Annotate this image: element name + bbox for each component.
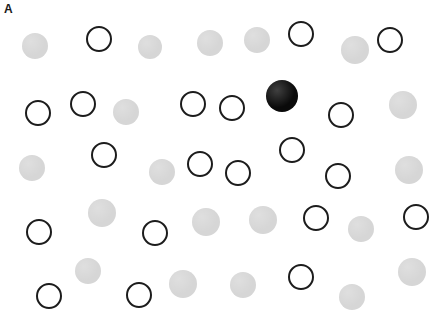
distractor-filled-6[interactable]: [113, 99, 139, 125]
distractor-filled-12[interactable]: [192, 208, 220, 236]
distractor-open-10[interactable]: [187, 151, 213, 177]
distractor-open-15[interactable]: [142, 220, 168, 246]
distractor-filled-16[interactable]: [169, 270, 197, 298]
stimulus-panel: A: [0, 0, 442, 317]
distractor-filled-13[interactable]: [249, 206, 277, 234]
distractor-open-16[interactable]: [303, 205, 329, 231]
distractor-open-7[interactable]: [219, 95, 245, 121]
distractor-open-14[interactable]: [26, 219, 52, 245]
distractor-open-11[interactable]: [225, 160, 251, 186]
distractor-open-13[interactable]: [325, 163, 351, 189]
target-black[interactable]: [266, 80, 298, 112]
distractor-filled-5[interactable]: [341, 36, 369, 64]
distractor-open-12[interactable]: [279, 137, 305, 163]
distractor-open-8[interactable]: [328, 102, 354, 128]
distractor-open-5[interactable]: [70, 91, 96, 117]
distractor-open-20[interactable]: [288, 264, 314, 290]
distractor-filled-4[interactable]: [244, 27, 270, 53]
distractor-filled-1[interactable]: [22, 33, 48, 59]
distractor-filled-15[interactable]: [75, 258, 101, 284]
distractor-filled-14[interactable]: [348, 216, 374, 242]
panel-label: A: [4, 2, 13, 16]
distractor-open-17[interactable]: [403, 204, 429, 230]
distractor-open-3[interactable]: [377, 27, 403, 53]
distractor-filled-17[interactable]: [230, 272, 256, 298]
distractor-open-18[interactable]: [36, 283, 62, 309]
distractor-open-6[interactable]: [180, 91, 206, 117]
distractor-filled-3[interactable]: [197, 30, 223, 56]
distractor-filled-8[interactable]: [19, 155, 45, 181]
distractor-open-2[interactable]: [288, 21, 314, 47]
distractor-filled-7[interactable]: [389, 91, 417, 119]
distractor-open-4[interactable]: [25, 100, 51, 126]
distractor-filled-9[interactable]: [149, 159, 175, 185]
distractor-filled-2[interactable]: [138, 35, 162, 59]
distractor-filled-18[interactable]: [339, 284, 365, 310]
distractor-filled-19[interactable]: [398, 258, 426, 286]
distractor-open-1[interactable]: [86, 26, 112, 52]
distractor-filled-10[interactable]: [395, 156, 423, 184]
distractor-open-19[interactable]: [126, 282, 152, 308]
distractor-filled-11[interactable]: [88, 199, 116, 227]
distractor-open-9[interactable]: [91, 142, 117, 168]
